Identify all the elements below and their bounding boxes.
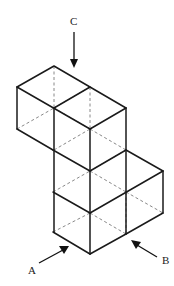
label-b: B — [162, 254, 169, 266]
isometric-cube-diagram: C A B — [0, 0, 174, 286]
view-arrow-c: C — [70, 15, 78, 68]
view-arrow-b: B — [131, 240, 169, 266]
label-a: A — [28, 264, 36, 276]
view-arrow-a: A — [28, 246, 69, 276]
label-c: C — [70, 15, 77, 27]
